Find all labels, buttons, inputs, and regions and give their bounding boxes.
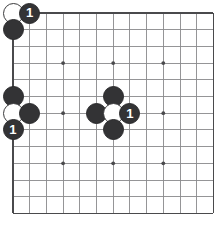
move-number-label: 1 bbox=[3, 119, 24, 140]
stone-black[interactable] bbox=[3, 19, 24, 40]
move-number-label: 1 bbox=[19, 3, 40, 24]
stone-black[interactable] bbox=[103, 119, 124, 140]
stone-layer: 111 bbox=[0, 0, 223, 227]
move-number-label: 1 bbox=[119, 103, 140, 124]
go-board-diagram: 111 bbox=[0, 0, 223, 227]
